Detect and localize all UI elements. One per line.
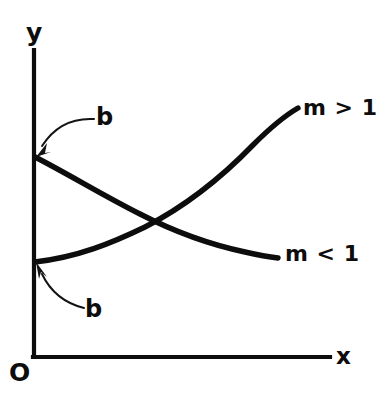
graph-svg [0, 0, 384, 399]
curve-label-m-less-than-1: m < 1 [285, 243, 359, 265]
x-axis-label: x [336, 345, 351, 368]
y-axis-label: y [26, 20, 42, 45]
b-lower-label: b [85, 297, 102, 321]
b-lower-leader-line [42, 274, 84, 308]
curve-label-m-greater-than-1: m > 1 [303, 97, 377, 119]
b-lower-arrow-head [36, 262, 47, 279]
b-upper-label: b [96, 105, 113, 129]
curve-m-less-than-1 [35, 157, 278, 258]
figure-canvas: y x O b b m > 1 m < 1 [0, 0, 384, 399]
curve-m-greater-than-1 [35, 108, 298, 262]
origin-label: O [9, 360, 30, 385]
b-upper-leader-line [42, 119, 94, 146]
